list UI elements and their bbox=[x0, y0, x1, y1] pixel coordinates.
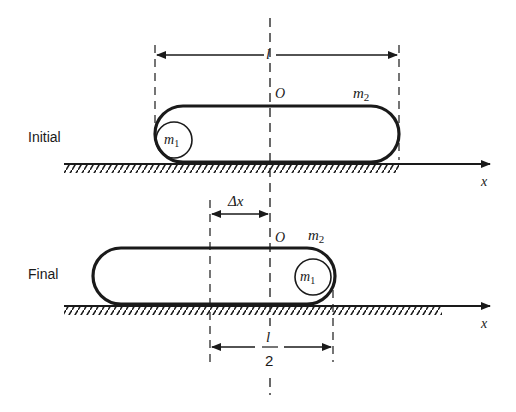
cart-ball-diagram: Initial l O m2 m1 x Final Δx O m2 m1 bbox=[0, 0, 516, 412]
x-axis-label-initial: x bbox=[480, 174, 488, 189]
initial-label: Initial bbox=[28, 129, 61, 145]
ball-mass-label-initial: m1 bbox=[164, 132, 179, 149]
ground-hatch-final bbox=[64, 306, 262, 315]
origin-label-initial: O bbox=[275, 86, 285, 101]
shift-label: Δx bbox=[227, 193, 244, 209]
ground-hatch-final-2 bbox=[262, 306, 442, 315]
cart-final bbox=[93, 248, 335, 304]
length-label: l bbox=[266, 46, 270, 62]
final-configuration: Final Δx O m2 m1 x l 2 bbox=[28, 193, 490, 374]
initial-configuration: Initial l O m2 m1 x bbox=[28, 45, 490, 189]
final-label: Final bbox=[28, 266, 58, 282]
origin-label-final: O bbox=[275, 230, 285, 245]
half-length-numerator: l bbox=[266, 329, 270, 345]
half-length-denominator: 2 bbox=[265, 352, 273, 369]
x-axis-label-final: x bbox=[480, 316, 488, 331]
ball-mass-label-final: m1 bbox=[300, 269, 315, 286]
ground-hatch-initial bbox=[64, 164, 399, 173]
cart-mass-label-initial: m2 bbox=[353, 85, 369, 103]
cart-mass-label-final: m2 bbox=[308, 227, 324, 245]
